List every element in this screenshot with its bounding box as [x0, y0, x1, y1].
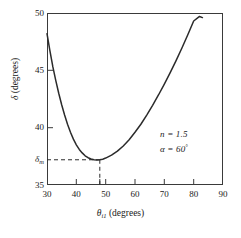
x-tick-label-60: 60 — [125, 190, 145, 199]
x-tick-label-90: 90 — [213, 190, 233, 199]
degree-icon: ° — [186, 144, 189, 150]
x-axis-tick-labels: 30 40 50 60 70 80 90 — [0, 190, 241, 204]
y-tick-label-45: 45 — [35, 66, 44, 75]
parameter-annotation: n = 1.5 α = 60° — [160, 128, 188, 156]
plot-drawing — [47, 13, 223, 185]
y-tick-label-delta-min: δm — [14, 155, 44, 166]
x-axis-units: (degrees) — [107, 208, 145, 218]
x-tick-label-50: 50 — [96, 190, 116, 199]
y-axis-ticks — [47, 70, 53, 127]
minimum-guide-lines — [47, 160, 100, 185]
x-axis-title: θi1 (degrees) — [0, 208, 241, 221]
figure-container: δ (degrees) 50 45 40 35 δm — [0, 0, 241, 238]
delta-min-subscript: m — [39, 158, 44, 165]
x-axis-ticks — [76, 179, 193, 185]
y-tick-label-50: 50 — [35, 9, 44, 18]
annotation-apex-angle: α = 60° — [160, 141, 188, 156]
x-tick-label-30: 30 — [37, 190, 57, 199]
annotation-n-text: n = 1.5 — [160, 129, 188, 139]
annotation-alpha-text: α = 60 — [160, 144, 186, 154]
annotation-refractive-index: n = 1.5 — [160, 128, 188, 141]
y-tick-label-40: 40 — [35, 123, 44, 132]
x-tick-label-70: 70 — [154, 190, 174, 199]
x-tick-label-80: 80 — [184, 190, 204, 199]
x-tick-label-40: 40 — [66, 190, 86, 199]
